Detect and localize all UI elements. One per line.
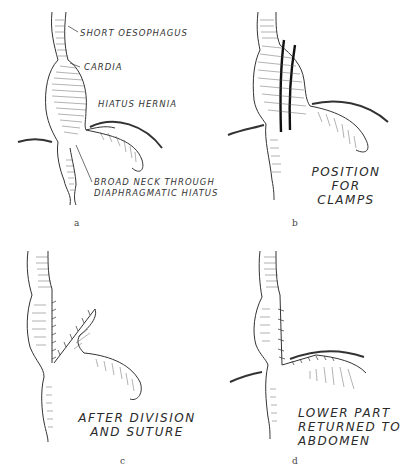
- panel-letter-b: b: [292, 218, 298, 228]
- panel-a: SHORT OESOPHAGUS CARDIA HIATUS HERNIA BR…: [0, 0, 206, 237]
- label-lower-part-returned: LOWER PART RETURNED TO ABDOMEN: [298, 407, 408, 448]
- label-line: AND SUTURE: [72, 426, 202, 440]
- panel-letter-a: a: [74, 218, 79, 228]
- panel-letter-d: d: [292, 456, 298, 466]
- panel-b: POSITION FOR CLAMPS b: [206, 0, 412, 237]
- panel-d: LOWER PART RETURNED TO ABDOMEN d: [206, 237, 412, 474]
- label-line: AFTER DIVISION: [72, 412, 202, 426]
- label-broad-neck-2: DIAPHRAGMATIC HIATUS: [94, 189, 218, 198]
- label-line: ABDOMEN: [298, 435, 408, 449]
- label-short-oesophagus: SHORT OESOPHAGUS: [80, 29, 188, 38]
- label-cardia: CARDIA: [84, 63, 123, 72]
- label-broad-neck-1: BROAD NECK THROUGH: [94, 178, 215, 187]
- label-line: LOWER PART: [298, 407, 408, 421]
- label-after-division-and-suture: AFTER DIVISION AND SUTURE: [72, 412, 202, 440]
- label-line: CLAMPS: [306, 194, 386, 208]
- label-line: POSITION: [306, 166, 386, 180]
- label-hiatus-hernia: HIATUS HERNIA: [98, 100, 177, 109]
- panel-letter-c: c: [120, 456, 125, 466]
- label-line: FOR: [306, 180, 386, 194]
- panel-c: AFTER DIVISION AND SUTURE c: [0, 237, 206, 474]
- label-line: RETURNED TO: [298, 421, 408, 435]
- label-position-for-clamps: POSITION FOR CLAMPS: [306, 166, 386, 207]
